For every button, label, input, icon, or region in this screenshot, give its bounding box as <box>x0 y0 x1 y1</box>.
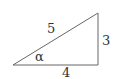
hypotenuse-label: 5 <box>47 21 55 36</box>
right-triangle-diagram: 5 3 4 α <box>0 0 115 79</box>
angle-alpha-label: α <box>35 49 44 64</box>
vertical-leg-label: 3 <box>102 33 110 48</box>
base-label: 4 <box>62 65 70 79</box>
triangle-outline <box>13 13 98 65</box>
